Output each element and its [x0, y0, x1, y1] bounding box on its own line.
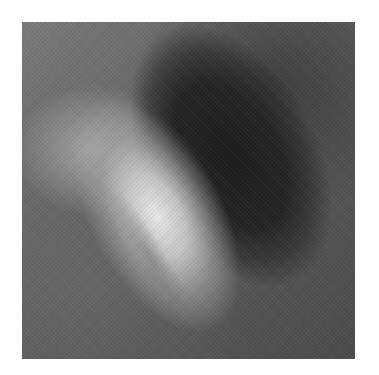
- landform-photograph: [22, 22, 355, 359]
- film-grain: [22, 22, 355, 359]
